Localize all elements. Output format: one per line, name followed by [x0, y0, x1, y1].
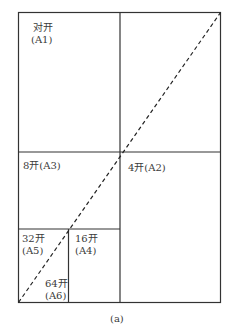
label-a6-line1: 64开 — [45, 278, 68, 290]
label-a4-line1: 16开 — [75, 233, 98, 245]
figure-caption: (a) — [110, 313, 124, 325]
label-a3: 8开(A3) — [23, 160, 61, 172]
label-a4-line2: (A4) — [75, 245, 96, 257]
label-a5-line1: 32开 — [22, 233, 45, 245]
label-a1-line1: 对开 — [33, 22, 53, 34]
label-a1-line2: (A1) — [31, 34, 52, 46]
label-a5-line2: (A5) — [22, 245, 43, 257]
label-a6-line2: (A6) — [45, 290, 66, 302]
label-a2: 4开(A2) — [128, 162, 166, 174]
